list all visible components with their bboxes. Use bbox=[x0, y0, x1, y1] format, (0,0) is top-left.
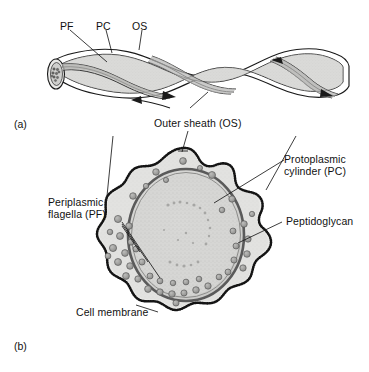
spirochete-diagram-svg bbox=[0, 0, 369, 372]
panel-a-tag: (a) bbox=[14, 118, 27, 130]
label-outer-sheath: Outer sheath (OS) bbox=[154, 117, 241, 129]
label-pc-short: PC bbox=[96, 20, 111, 32]
label-peptidoglycan: Peptidoglycan bbox=[286, 215, 353, 227]
label-cell-membrane: Cell membrane bbox=[76, 306, 149, 318]
label-periplasmic-flagella-line2: flagella (PF) bbox=[48, 208, 106, 220]
label-protoplasmic-cylinder-line2: cylinder (PC) bbox=[284, 165, 346, 177]
label-protoplasmic-cylinder-line1: Protoplasmic bbox=[284, 153, 346, 165]
label-os-short: OS bbox=[132, 20, 147, 32]
label-periplasmic-flagella-line1: Periplasmic bbox=[48, 196, 103, 208]
label-pf-short: PF bbox=[60, 20, 73, 32]
panel-b-tag: (b) bbox=[14, 340, 27, 352]
figure-root: PF PC OS (a) Outer sheath (OS) Protoplas… bbox=[0, 0, 369, 372]
